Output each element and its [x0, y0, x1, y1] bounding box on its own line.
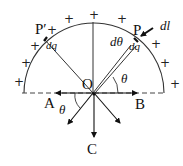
label-c: C	[87, 142, 97, 157]
label-center-o: O	[82, 77, 93, 92]
label-dq-right: dq	[129, 41, 140, 52]
plus-sign: +	[14, 76, 24, 88]
label-dl: dl	[160, 19, 170, 32]
label-theta-lower: θ	[59, 103, 65, 116]
field-arrow-down-right	[94, 93, 120, 123]
field-arrow-down-left	[68, 93, 93, 124]
plus-sign: +	[30, 40, 40, 52]
theta-arc-lower	[75, 93, 80, 108]
label-dtheta: dθ	[110, 35, 123, 48]
radius-to-p-second	[95, 46, 136, 93]
plus-sign: +	[21, 57, 31, 69]
label-a: A	[44, 96, 55, 111]
label-b: B	[135, 97, 145, 112]
plus-sign: +	[64, 13, 74, 25]
theta-arc-upper	[113, 77, 118, 93]
plus-sign: +	[117, 13, 127, 25]
plus-sign: +	[160, 57, 170, 69]
dl-arrow	[141, 28, 153, 36]
plus-sign: +	[151, 38, 161, 50]
label-theta-upper: θ	[121, 72, 127, 85]
label-dq-left: dq	[46, 40, 57, 51]
label-p: P	[133, 23, 141, 38]
plus-sign: +	[89, 9, 99, 21]
plus-sign: +	[47, 24, 57, 36]
label-p-prime: P′	[35, 22, 47, 37]
plus-sign: +	[170, 78, 180, 90]
